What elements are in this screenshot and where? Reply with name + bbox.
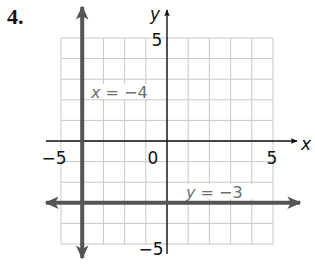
y-axis-label: y: [149, 4, 161, 24]
coordinate-plane: x = −4y = −3−5055−5xy: [0, 0, 315, 265]
y-tick-label: 5: [152, 30, 163, 50]
x-tick-label: −5: [41, 148, 66, 168]
graph-figure: 4. x = −4y = −3−5055−5xy: [0, 0, 315, 265]
equation-label: y = −3: [185, 183, 243, 202]
y-tick-label: −5: [138, 239, 163, 259]
x-tick-label: 5: [267, 148, 278, 168]
equation-label: x = −4: [90, 83, 148, 102]
graphed-lines: [46, 7, 300, 258]
problem-number: 4.: [7, 4, 24, 30]
x-tick-label: 0: [148, 148, 159, 168]
x-axis-label: x: [300, 134, 312, 154]
